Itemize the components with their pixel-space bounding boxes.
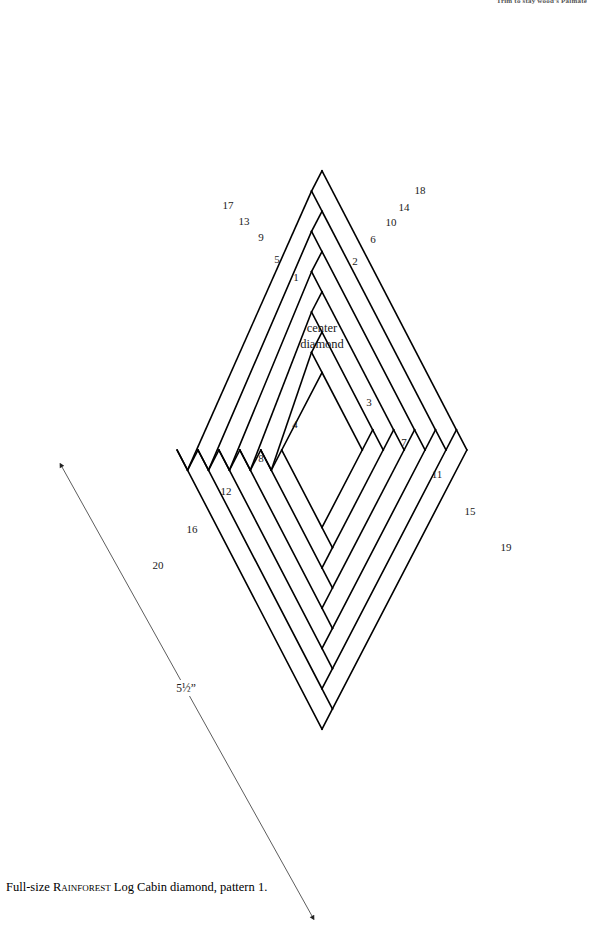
strip-edge bbox=[332, 450, 466, 709]
strip-edge bbox=[456, 430, 466, 450]
strip-number-16: 16 bbox=[187, 523, 199, 535]
center-diamond-label-line2: diamond bbox=[300, 337, 344, 351]
strip-edge bbox=[282, 450, 322, 528]
strip-edge bbox=[332, 450, 404, 588]
strip-edge bbox=[322, 292, 394, 430]
strip-edge bbox=[322, 372, 362, 450]
strip-edge bbox=[312, 191, 322, 211]
strip-edge bbox=[332, 450, 425, 628]
strip-edge bbox=[322, 709, 332, 729]
strip-edge bbox=[250, 312, 311, 470]
strip-number-17: 17 bbox=[223, 199, 235, 211]
strip-edge bbox=[209, 450, 219, 470]
strip-number-6: 6 bbox=[370, 233, 376, 245]
strip-outlines bbox=[177, 171, 467, 729]
center-diamond-label-line1: center bbox=[307, 321, 338, 335]
center-diamond-label: center diamond bbox=[300, 321, 344, 351]
strip-edge bbox=[436, 430, 446, 450]
strip-edge bbox=[322, 211, 436, 430]
strip-number-19: 19 bbox=[501, 541, 513, 553]
strip-edge bbox=[415, 430, 425, 450]
strip-edge bbox=[198, 450, 208, 470]
strip-edge bbox=[446, 430, 456, 450]
strip-edge bbox=[322, 548, 332, 568]
strip-edge bbox=[332, 450, 446, 669]
log-cabin-diamond-diagram: 1234567891011121314151617181920 center d… bbox=[0, 0, 595, 926]
strip-number-3: 3 bbox=[366, 396, 372, 408]
strip-edge bbox=[229, 450, 239, 470]
strip-edge bbox=[219, 450, 229, 470]
strip-number-14: 14 bbox=[399, 201, 411, 213]
strip-number-7: 7 bbox=[401, 436, 407, 448]
strip-number-labels: 1234567891011121314151617181920 bbox=[153, 184, 513, 571]
strip-edge bbox=[322, 648, 332, 668]
strip-edge bbox=[312, 171, 322, 191]
strip-number-8: 8 bbox=[258, 452, 264, 464]
strip-edge bbox=[177, 450, 187, 470]
strip-edge bbox=[312, 252, 322, 272]
strip-number-11: 11 bbox=[432, 468, 443, 480]
strip-number-18: 18 bbox=[415, 184, 427, 196]
strip-number-13: 13 bbox=[239, 215, 251, 227]
strip-edge bbox=[282, 372, 322, 450]
strip-number-9: 9 bbox=[258, 231, 264, 243]
strip-number-10: 10 bbox=[386, 216, 398, 228]
strip-edge bbox=[229, 272, 311, 470]
strip-number-5: 5 bbox=[274, 253, 280, 265]
strip-edge bbox=[312, 211, 322, 231]
strip-edge bbox=[240, 450, 322, 608]
strip-number-2: 2 bbox=[352, 255, 358, 267]
strip-number-15: 15 bbox=[465, 505, 477, 517]
strip-number-12: 12 bbox=[221, 485, 232, 497]
strip-edge bbox=[373, 430, 383, 450]
strip-edge bbox=[271, 352, 311, 470]
strip-edge bbox=[322, 568, 332, 588]
strip-edge bbox=[322, 608, 332, 628]
page-root: Trim to stay wood's Palmate 123456789101… bbox=[0, 0, 595, 926]
strip-edge bbox=[240, 450, 250, 470]
strip-edge bbox=[362, 430, 372, 450]
strip-edge bbox=[322, 669, 332, 689]
strip-edge bbox=[322, 450, 362, 528]
strip-edge bbox=[383, 430, 393, 450]
caption-brand: Rainforest bbox=[53, 880, 111, 894]
strip-edge bbox=[312, 292, 322, 312]
strip-edge bbox=[312, 272, 322, 292]
caption-suffix: Log Cabin diamond, pattern 1. bbox=[111, 880, 268, 894]
strip-number-1: 1 bbox=[293, 271, 299, 283]
strip-number-20: 20 bbox=[153, 559, 165, 571]
strip-edge bbox=[219, 450, 322, 648]
strip-edge bbox=[322, 588, 332, 608]
strip-edge bbox=[322, 689, 332, 709]
strip-edge bbox=[312, 352, 322, 372]
strip-edge bbox=[322, 171, 456, 430]
dimension-label: 5½” bbox=[176, 682, 195, 694]
strip-edge bbox=[198, 450, 322, 689]
strip-edge bbox=[312, 231, 322, 251]
strip-edge bbox=[188, 450, 198, 470]
caption-prefix: Full-size bbox=[6, 880, 53, 894]
strip-number-4: 4 bbox=[292, 418, 298, 430]
strip-edge bbox=[322, 628, 332, 648]
strip-edge bbox=[322, 528, 332, 548]
strip-edge bbox=[425, 430, 435, 450]
strip-edge bbox=[332, 450, 383, 548]
figure-caption: Full-size Rainforest Log Cabin diamond, … bbox=[6, 880, 267, 895]
